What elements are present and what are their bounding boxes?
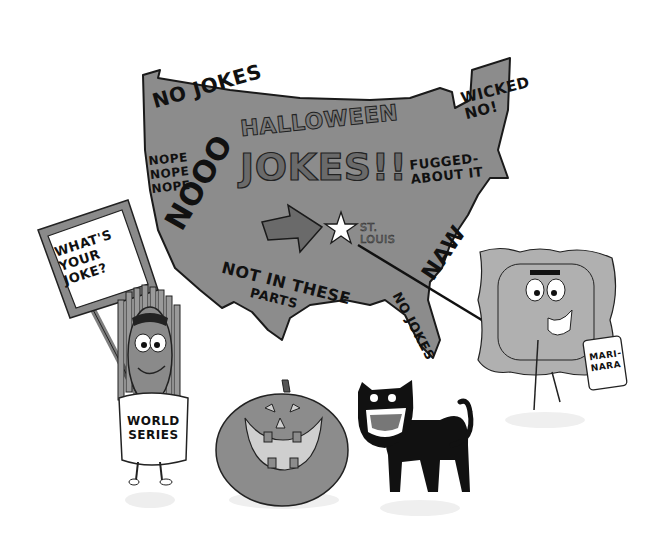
ravioli-professor xyxy=(478,249,627,429)
corn-character xyxy=(118,285,188,508)
st-louis-label: ST. LOUIS xyxy=(360,222,395,246)
map-title-line2: JOKES!! xyxy=(240,148,407,186)
corn-can-label: WORLD SERIES xyxy=(127,414,180,442)
jack-o-lantern xyxy=(216,380,348,509)
black-cat xyxy=(358,380,471,516)
marinara-can-label: MARI- NARA xyxy=(589,348,624,374)
